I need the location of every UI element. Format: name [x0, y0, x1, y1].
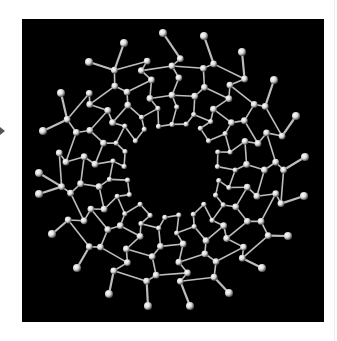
molecule-render — [0, 0, 337, 341]
